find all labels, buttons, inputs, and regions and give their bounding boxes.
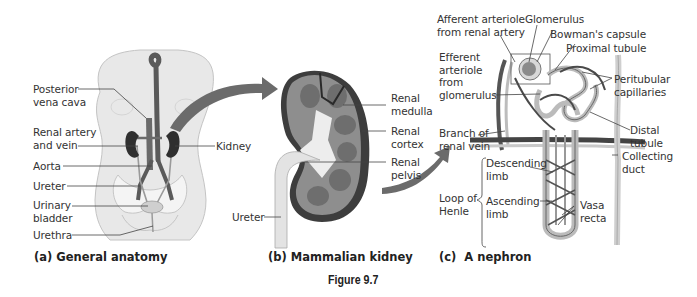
label-glomerulus: Glomerulus bbox=[525, 13, 584, 26]
label-renal-artery-and-vein: Renal artery and vein bbox=[33, 126, 96, 151]
label-peritubular-capillaries: Peritubular capillaries bbox=[614, 73, 670, 98]
label-ureter-a: Ureter bbox=[33, 180, 66, 193]
label-vasa-recta: Vasa recta bbox=[580, 199, 606, 224]
label-efferent-arteriole: Efferent arteriole from glomerulus bbox=[439, 51, 497, 101]
label-aorta: Aorta bbox=[33, 160, 61, 173]
caption-a-nephron: (c) A nephron bbox=[439, 250, 531, 264]
label-branch-of-renal-vein: Branch of renal vein bbox=[439, 127, 490, 152]
kidney-cross-section bbox=[275, 71, 369, 248]
label-urethra: Urethra bbox=[33, 229, 72, 242]
label-descending-limb: Descending limb bbox=[486, 157, 547, 182]
label-ascending-limb: Ascending limb bbox=[486, 195, 540, 220]
label-distal-tubule: Distal tubule bbox=[630, 124, 663, 149]
label-collecting-duct: Collecting duct bbox=[622, 150, 673, 175]
label-loop-of-henle: Loop of Henle bbox=[439, 192, 477, 217]
label-kidney: Kidney bbox=[216, 140, 251, 153]
loop-of-henle-bracket bbox=[477, 158, 486, 247]
caption-mammalian-kidney: (b) Mammalian kidney bbox=[268, 250, 413, 264]
label-renal-pelvis: Renal pelvis bbox=[391, 156, 421, 181]
caption-general-anatomy: (a) General anatomy bbox=[34, 250, 167, 264]
label-bowmans-capsule: Bowman's capsule bbox=[550, 28, 646, 41]
label-posterior-vena-cava: Posterior vena cava bbox=[33, 83, 86, 108]
figure-number: Figure 9.7 bbox=[328, 272, 378, 287]
label-proximal-tubule: Proximal tubule bbox=[566, 42, 646, 55]
label-ureter-b: Ureter bbox=[232, 211, 265, 224]
label-urinary-bladder: Urinary bladder bbox=[33, 199, 72, 224]
label-renal-medulla: Renal medulla bbox=[391, 92, 433, 117]
label-afferent-arteriole: Afferent arteriole from renal artery bbox=[437, 13, 525, 38]
label-renal-cortex: Renal cortex bbox=[391, 125, 424, 150]
